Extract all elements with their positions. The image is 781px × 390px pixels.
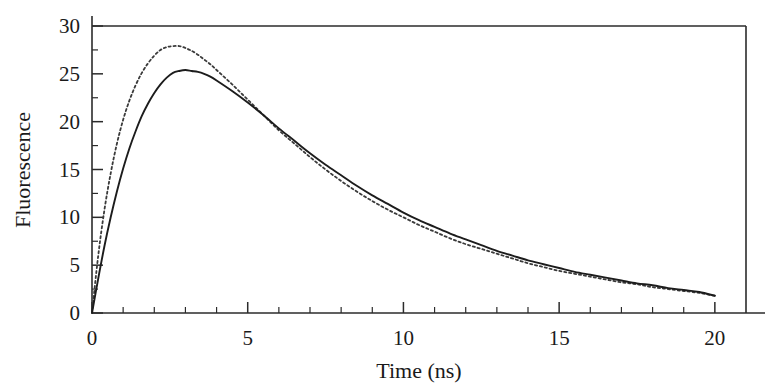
x-tick-label: 15 bbox=[549, 326, 570, 350]
y-tick-label: 10 bbox=[59, 205, 80, 229]
y-tick-label: 5 bbox=[70, 253, 81, 277]
x-tick-label: 20 bbox=[704, 326, 725, 350]
x-tick-label: 10 bbox=[393, 326, 414, 350]
x-axis-title: Time (ns) bbox=[376, 358, 461, 383]
y-tick-label: 0 bbox=[70, 301, 81, 325]
y-tick-label: 20 bbox=[59, 110, 80, 134]
y-tick-label: 15 bbox=[59, 158, 80, 182]
figure-container: 05101520 051015202530 Time (ns) Fluoresc… bbox=[0, 0, 781, 390]
y-axis-title: Fluorescence bbox=[10, 112, 35, 228]
y-tick-label: 30 bbox=[59, 14, 80, 38]
x-tick-label: 5 bbox=[242, 326, 253, 350]
chart-background bbox=[0, 0, 781, 390]
x-tick-label: 0 bbox=[87, 326, 98, 350]
fluorescence-decay-chart: 05101520 051015202530 Time (ns) Fluoresc… bbox=[0, 0, 781, 390]
y-tick-label: 25 bbox=[59, 62, 80, 86]
